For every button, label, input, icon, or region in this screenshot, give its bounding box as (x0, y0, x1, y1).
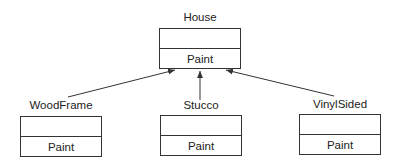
operation-paint: Paint (21, 137, 101, 157)
class-name-house: House (159, 11, 241, 23)
class-box-woodframe: Paint (20, 116, 102, 157)
attributes-compartment (161, 116, 241, 136)
operation-paint: Paint (160, 49, 240, 69)
attributes-compartment (300, 115, 380, 135)
arrow-woodframe-to-house (68, 70, 175, 97)
class-name-woodframe: WoodFrame (20, 99, 102, 111)
class-name-vinylsided: VinylSided (299, 98, 381, 110)
class-name-stucco: Stucco (160, 99, 242, 111)
attributes-compartment (21, 117, 101, 137)
operation-paint: Paint (161, 136, 241, 156)
class-box-vinylsided: Paint (299, 114, 381, 155)
operation-paint: Paint (300, 135, 380, 155)
arrow-vinylsided-to-house (226, 70, 334, 96)
class-box-stucco: Paint (160, 115, 242, 156)
class-box-house: Paint (159, 28, 241, 69)
attributes-compartment (160, 29, 240, 49)
